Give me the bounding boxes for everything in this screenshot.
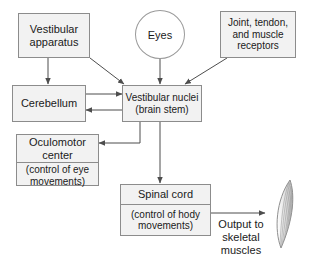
vestibular-pathway-diagram: Vestibular apparatus Eyes Joint, tendon,… xyxy=(0,0,310,265)
node-spinal-cord: Spinal cord (control of hody movements) xyxy=(120,184,211,236)
label-line-1: (control of eye xyxy=(26,164,89,175)
label-line-1: Output to xyxy=(218,218,263,230)
node-eyes: Eyes xyxy=(135,10,185,59)
node-oculomotor-title: Oculomotor center xyxy=(17,135,98,162)
edge-nuclei-to-oculomotor xyxy=(99,122,140,143)
node-vestibular-nuclei: Vestibular nuclei (brain stem) xyxy=(122,85,202,122)
node-cerebellum-label: Cerebellum xyxy=(13,86,85,121)
output-to-skeletal-muscles-label: Output to skeletal muscles xyxy=(210,218,272,258)
label-line-2: and muscle xyxy=(232,29,283,40)
node-vestibular-apparatus-label: Vestibular apparatus xyxy=(19,14,89,57)
label-line-1: Vestibular xyxy=(30,23,78,35)
label-line-2: skeletal xyxy=(222,231,259,243)
skeletal-muscle-icon xyxy=(268,178,302,252)
node-eyes-label: Eyes xyxy=(148,29,172,41)
label-line-1: Joint, tendon, xyxy=(228,17,288,28)
label-line-2: movements) xyxy=(138,220,193,231)
label-line-2: apparatus xyxy=(30,36,79,48)
label-line-1: Vestibular nuclei xyxy=(126,92,199,103)
node-receptors-label: Joint, tendon, and muscle receptors xyxy=(221,12,295,57)
label-line-2: (brain stem) xyxy=(135,104,188,115)
edge-receptors-to-nuclei xyxy=(185,58,227,84)
node-vestibular-nuclei-label: Vestibular nuclei (brain stem) xyxy=(123,86,201,121)
node-cerebellum: Cerebellum xyxy=(12,85,86,122)
node-spinal-cord-title: Spinal cord xyxy=(121,185,210,204)
node-joint-tendon-muscle-receptors: Joint, tendon, and muscle receptors xyxy=(220,11,296,58)
label-line-2: center xyxy=(42,149,73,161)
label-line-3: receptors xyxy=(237,40,279,51)
node-oculomotor-subtitle: (control of eye movements) xyxy=(17,162,98,188)
node-spinal-cord-subtitle: (control of hody movements) xyxy=(121,204,210,235)
label-line-1: (control of hody xyxy=(131,209,200,220)
node-vestibular-apparatus: Vestibular apparatus xyxy=(18,13,90,58)
edge-apparatus-to-nuclei xyxy=(90,58,124,84)
label-line-2: movements) xyxy=(30,176,85,187)
node-oculomotor-center: Oculomotor center (control of eye moveme… xyxy=(16,134,99,186)
label-line-1: Oculomotor xyxy=(29,136,86,148)
label-line-3: muscles xyxy=(221,244,261,256)
